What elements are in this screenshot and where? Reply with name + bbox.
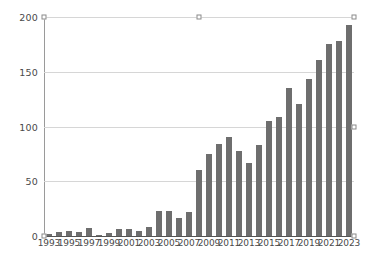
bar[interactable] [206, 154, 213, 236]
bar[interactable] [346, 25, 353, 236]
bar[interactable] [306, 79, 313, 236]
bar[interactable] [156, 211, 163, 236]
bar[interactable] [256, 145, 263, 236]
y-tick-label: 150 [19, 66, 38, 77]
bar[interactable] [176, 218, 183, 236]
bar[interactable] [46, 234, 53, 236]
handle-bottom-left[interactable] [42, 234, 47, 239]
bar[interactable] [326, 44, 333, 236]
bar[interactable] [136, 231, 143, 236]
x-tick-label: 2023 [338, 238, 361, 248]
bar[interactable] [126, 229, 133, 236]
bar[interactable] [276, 117, 283, 236]
plot-area [44, 17, 354, 236]
bar[interactable] [246, 163, 253, 236]
bar[interactable] [316, 60, 323, 236]
bar[interactable] [186, 212, 193, 236]
bar[interactable] [296, 104, 303, 236]
handle-top-left[interactable] [42, 15, 47, 20]
bar[interactable] [76, 232, 83, 236]
x-axis-tick-labels: 1993199519971999200120032005200720092011… [44, 238, 354, 254]
bar[interactable] [336, 41, 343, 236]
bars-layer [44, 17, 354, 236]
x-axis-baseline [44, 236, 354, 237]
bar[interactable] [116, 229, 123, 236]
handle-top-right[interactable] [352, 15, 357, 20]
bar[interactable] [146, 227, 153, 236]
y-tick-label: 50 [26, 176, 39, 187]
handle-middle-right[interactable] [352, 124, 357, 129]
bar[interactable] [216, 144, 223, 236]
bar[interactable] [106, 233, 113, 236]
bar[interactable] [226, 137, 233, 236]
y-tick-label: 200 [19, 12, 38, 23]
handle-bottom-right[interactable] [352, 234, 357, 239]
y-axis-tick-labels: 050100150200 [0, 17, 38, 236]
bar[interactable] [236, 151, 243, 236]
bar-chart-figure[interactable]: 050100150200 199319951997199920012003200… [0, 0, 372, 267]
handle-top-center[interactable] [197, 15, 202, 20]
bar[interactable] [66, 231, 73, 236]
bar[interactable] [286, 88, 293, 236]
bar[interactable] [96, 235, 103, 236]
bar[interactable] [196, 170, 203, 236]
bar[interactable] [86, 228, 93, 236]
bar[interactable] [56, 232, 63, 236]
bar[interactable] [266, 121, 273, 236]
bar[interactable] [166, 211, 173, 236]
y-tick-label: 100 [19, 121, 38, 132]
